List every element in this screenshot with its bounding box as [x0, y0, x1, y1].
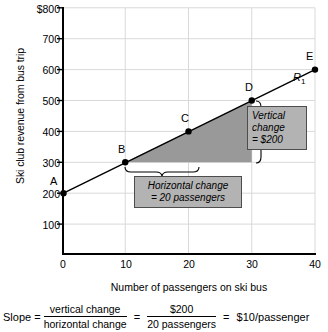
horizontal-change-line2: = 20 passengers [139, 192, 237, 204]
data-point-B [122, 159, 128, 165]
point-label-D: D [245, 82, 253, 93]
data-point-E [312, 66, 318, 72]
line-label-R1-sub: 1 [301, 77, 305, 86]
slope-equals-1: = [130, 311, 144, 323]
line-label-R1: R1 [293, 72, 305, 87]
slope-fraction-words-numerator: vertical change [44, 303, 127, 317]
slope-formula: Slope = vertical change horizontal chang… [0, 303, 328, 332]
plot-area [0, 0, 328, 300]
slope-lead: Slope = [3, 311, 41, 323]
vertical-change-line1: Vertical [252, 110, 302, 122]
vertical-change-callout: Vertical change = $200 [247, 106, 307, 150]
slope-formula-row: Slope = vertical change horizontal chang… [3, 303, 309, 330]
horizontal-change-callout: Horizontal change = 20 passengers [134, 176, 242, 208]
point-label-A: A [50, 176, 57, 187]
vertical-change-line3: = $200 [252, 134, 302, 146]
horizontal-change-line1: Horizontal change [139, 180, 237, 192]
slope-fraction-words: vertical change horizontal change [44, 303, 127, 330]
data-point-A [60, 190, 66, 196]
slope-equals-2: = [219, 311, 233, 323]
slope-fraction-numbers: $200 20 passengers [147, 303, 216, 330]
slope-fraction-numbers-denominator: 20 passengers [147, 317, 216, 330]
slope-fraction-words-denominator: horizontal change [44, 317, 127, 330]
slope-result: $10/passenger [237, 311, 310, 323]
slope-chart-figure: Ski club revenue from bus trip $800 700 … [0, 0, 328, 332]
data-point-C [185, 128, 191, 134]
line-label-R1-base: R [293, 71, 301, 83]
vertical-change-line2: change [252, 122, 302, 134]
point-label-C: C [181, 113, 189, 124]
point-label-E: E [306, 51, 313, 62]
slope-fraction-numbers-numerator: $200 [147, 303, 216, 317]
data-point-D [249, 97, 255, 103]
point-label-B: B [118, 144, 125, 155]
